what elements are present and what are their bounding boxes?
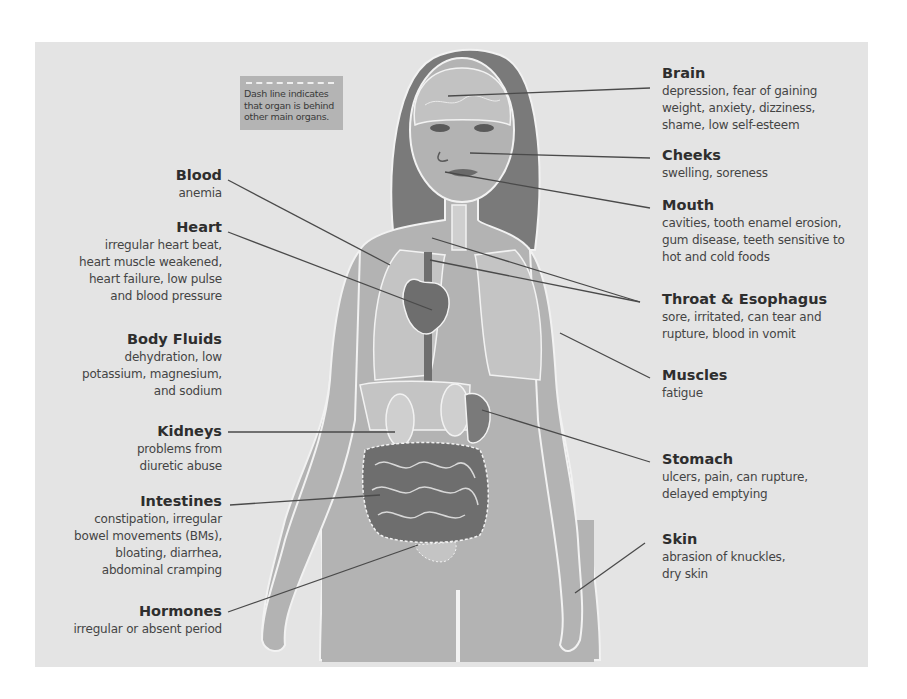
label-desc: swelling, soreness bbox=[662, 165, 768, 182]
label-desc: abrasion of knuckles, bbox=[662, 549, 785, 566]
label-title: Skin bbox=[662, 530, 785, 549]
label-desc: weight, anxiety, dizziness, bbox=[662, 100, 817, 117]
label-title: Muscles bbox=[662, 366, 727, 385]
label-desc: heart muscle weakened, bbox=[79, 254, 222, 271]
label-desc: shame, low self-esteem bbox=[662, 117, 817, 134]
label-desc: bowel movements (BMs), bbox=[74, 528, 222, 545]
label-hormones: Hormones irregular or absent period bbox=[73, 602, 222, 638]
label-desc: cavities, tooth enamel erosion, bbox=[662, 215, 845, 232]
label-skin: Skin abrasion of knuckles, dry skin bbox=[662, 530, 785, 583]
label-desc: ulcers, pain, can rupture, bbox=[662, 469, 808, 486]
label-intestines: Intestines constipation, irregular bowel… bbox=[74, 492, 222, 579]
label-desc: constipation, irregular bbox=[74, 511, 222, 528]
left-kidney-shape bbox=[386, 394, 414, 446]
label-throat-esophagus: Throat & Esophagus sore, irritated, can … bbox=[662, 290, 827, 343]
label-kidneys: Kidneys problems from diuretic abuse bbox=[137, 422, 222, 475]
label-title: Kidneys bbox=[137, 422, 222, 441]
label-desc: dry skin bbox=[662, 566, 785, 583]
label-desc: irregular heart beat, bbox=[79, 237, 222, 254]
label-title: Mouth bbox=[662, 196, 845, 215]
label-desc: diuretic abuse bbox=[137, 458, 222, 475]
label-desc: anemia bbox=[176, 185, 222, 202]
intestines-shape bbox=[363, 443, 489, 543]
label-desc: rupture, blood in vomit bbox=[662, 326, 827, 343]
label-desc: potassium, magnesium, bbox=[82, 366, 222, 383]
label-title: Stomach bbox=[662, 450, 808, 469]
label-desc: dehydration, low bbox=[82, 349, 222, 366]
label-title: Blood bbox=[176, 166, 222, 185]
label-brain: Brain depression, fear of gaining weight… bbox=[662, 64, 817, 134]
label-desc: fatigue bbox=[662, 385, 727, 402]
label-stomach: Stomach ulcers, pain, can rupture, delay… bbox=[662, 450, 808, 503]
label-title: Intestines bbox=[74, 492, 222, 511]
right-kidney-shape bbox=[441, 384, 469, 436]
label-body-fluids: Body Fluids dehydration, low potassium, … bbox=[82, 330, 222, 400]
label-desc: irregular or absent period bbox=[73, 621, 222, 638]
label-desc: abdominal cramping bbox=[74, 562, 222, 579]
legend-box: Dash line indicates that organ is behind… bbox=[240, 76, 343, 130]
label-desc: bloating, diarrhea, bbox=[74, 545, 222, 562]
legend-text: Dash line indicates that organ is behind… bbox=[244, 88, 339, 123]
label-desc: sore, irritated, can tear and bbox=[662, 309, 827, 326]
label-title: Throat & Esophagus bbox=[662, 290, 827, 309]
label-blood: Blood anemia bbox=[176, 166, 222, 202]
label-desc: and sodium bbox=[82, 383, 222, 400]
trachea-shape bbox=[452, 205, 466, 250]
label-heart: Heart irregular heart beat, heart muscle… bbox=[79, 218, 222, 305]
label-title: Brain bbox=[662, 64, 817, 83]
label-title: Cheeks bbox=[662, 146, 768, 165]
label-desc: heart failure, low pulse bbox=[79, 271, 222, 288]
label-desc: and blood pressure bbox=[79, 288, 222, 305]
label-title: Hormones bbox=[73, 602, 222, 621]
label-desc: problems from bbox=[137, 441, 222, 458]
label-desc: gum disease, teeth sensitive to bbox=[662, 232, 845, 249]
dash-line-sample bbox=[246, 82, 334, 84]
label-title: Body Fluids bbox=[82, 330, 222, 349]
label-mouth: Mouth cavities, tooth enamel erosion, gu… bbox=[662, 196, 845, 266]
label-desc: delayed emptying bbox=[662, 486, 808, 503]
label-cheeks: Cheeks swelling, soreness bbox=[662, 146, 768, 182]
label-desc: depression, fear of gaining bbox=[662, 83, 817, 100]
label-desc: hot and cold foods bbox=[662, 249, 845, 266]
label-muscles: Muscles fatigue bbox=[662, 366, 727, 402]
label-title: Heart bbox=[79, 218, 222, 237]
